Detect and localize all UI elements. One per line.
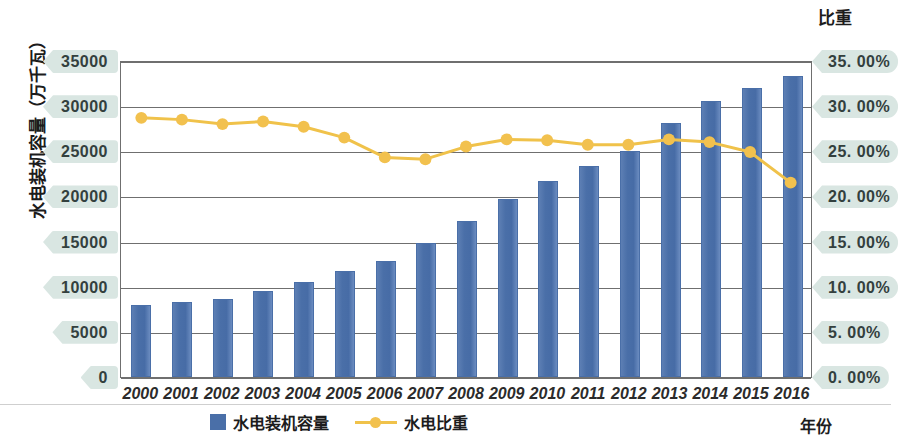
line-marker: 2006: 24.4%: [379, 151, 391, 163]
footer-divider: [0, 404, 891, 405]
line-marker: 2009: 26.4%: [501, 133, 513, 145]
x-axis-tick: 2002: [201, 385, 242, 403]
x-axis-tick: 2004: [283, 385, 324, 403]
x-axis-tick: 2013: [649, 385, 690, 403]
x-axis-tick: 2015: [731, 385, 772, 403]
line-marker: 2003: 28.4%: [257, 115, 269, 127]
left-axis-tick: 15000: [43, 231, 118, 254]
line-marker: 2010: 26.3%: [541, 134, 553, 146]
left-axis-tick: 10000: [43, 276, 118, 299]
line-marker: 2001: 28.6%: [176, 114, 188, 126]
line-marker: 2002: 28.1%: [217, 118, 229, 130]
x-axis-title: 年份: [800, 413, 832, 437]
x-axis-tick: 2010: [527, 385, 568, 403]
legend-item-bar[interactable]: 水电装机容量: [210, 410, 329, 434]
left-axis-tick: 25000: [43, 140, 118, 163]
right-axis-tick: 30. 00%: [812, 95, 898, 118]
left-axis-tick: 30000: [43, 95, 118, 118]
legend-label-line: 水电比重: [404, 410, 468, 434]
chart-legend: 水电装机容量 水电比重: [210, 410, 468, 434]
left-axis-tick-labels: 35000300002500020000150001000050000: [30, 0, 118, 437]
right-axis-tick: 35. 00%: [812, 50, 898, 73]
x-axis-tick: 2008: [446, 385, 487, 403]
plot-area: 2000: 28.8%2001: 28.6%2002: 28.1%2003: 2…: [120, 61, 812, 378]
x-axis-tick: 2003: [242, 385, 283, 403]
right-axis-tick: 20. 00%: [812, 185, 898, 208]
x-axis-tick: 2014: [690, 385, 731, 403]
right-axis-tick: 0. 00%: [812, 366, 889, 389]
right-axis-tick: 25. 00%: [812, 140, 898, 163]
line-marker: 2000: 28.8%: [135, 112, 147, 124]
x-axis-tick: 2012: [608, 385, 649, 403]
x-axis-tick: 2011: [568, 385, 609, 403]
left-axis-tick: 20000: [43, 185, 118, 208]
left-axis-tick: 5000: [52, 321, 118, 344]
bar-swatch-icon: [210, 414, 226, 430]
right-axis-tick: 15. 00%: [812, 231, 898, 254]
legend-item-line[interactable]: 水电比重: [355, 410, 468, 434]
line-series: 2000: 28.8%2001: 28.6%2002: 28.1%2003: 2…: [121, 62, 811, 377]
line-marker: 2004: 27.8%: [298, 121, 310, 133]
left-axis-tick: 35000: [43, 50, 118, 73]
line-marker: 2005: 26.6%: [338, 132, 350, 144]
line-marker: 2015: 25%: [744, 146, 756, 158]
x-axis-tick: 2000: [120, 385, 161, 403]
gridline: [121, 378, 811, 379]
line-marker: 2011: 25.8%: [582, 139, 594, 151]
line-marker: 2014: 26.1%: [704, 136, 716, 148]
line-marker: 2012: 25.8%: [622, 139, 634, 151]
line-marker: 2013: 26.4%: [663, 133, 675, 145]
x-axis-tick: 2007: [405, 385, 446, 403]
legend-label-bar: 水电装机容量: [233, 410, 329, 434]
line-marker: 2016: 21.6%: [785, 177, 797, 189]
line-marker: 2007: 24.2%: [419, 153, 431, 165]
x-axis-tick: 2009: [486, 385, 527, 403]
line-marker: 2008: 25.6%: [460, 141, 472, 153]
x-axis-tick: 2016: [771, 385, 812, 403]
x-axis-tick: 2005: [324, 385, 365, 403]
line-swatch-icon: [355, 414, 397, 430]
right-axis-tick: 5. 00%: [812, 321, 889, 344]
left-axis-tick: 0: [81, 366, 118, 389]
right-axis-tick: 10. 00%: [812, 276, 898, 299]
right-axis-tick-labels: 35. 00%30. 00%25. 00%20. 00%15. 00%10. 0…: [812, 0, 891, 437]
x-axis-tick: 2001: [161, 385, 202, 403]
x-axis-tick: 2006: [364, 385, 405, 403]
